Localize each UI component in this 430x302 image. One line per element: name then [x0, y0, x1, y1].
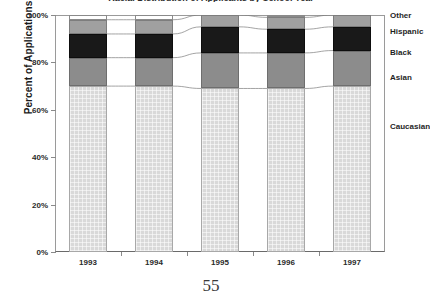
bar-segment-other: [267, 15, 305, 17]
y-tick-label: 40%: [12, 153, 48, 162]
x-tick-mark: [121, 252, 122, 256]
bar-segment-asian: [69, 58, 107, 86]
y-tick-mark: [51, 157, 56, 158]
bar-segment-black: [333, 27, 371, 51]
legend-label-asian: Asian: [390, 73, 412, 82]
bar-segment-caucasian: [201, 88, 239, 252]
bar-segment-black: [69, 34, 107, 58]
bar-segment-other: [69, 15, 107, 20]
x-tick-label: 1995: [195, 258, 245, 267]
y-tick-mark: [51, 205, 56, 206]
bar-segment-other: [135, 15, 173, 20]
bar-segment-hispanic: [69, 20, 107, 34]
bar-segment-asian: [201, 53, 239, 89]
y-tick-label: 80%: [12, 58, 48, 67]
bar-segment-caucasian: [267, 88, 305, 252]
bar-segment-hispanic: [333, 15, 371, 27]
legend-label-other: Other: [390, 11, 411, 20]
bar-1993: [69, 15, 107, 252]
x-tick-mark: [187, 252, 188, 256]
bar-segment-hispanic: [201, 15, 239, 27]
page-number: 55: [0, 276, 422, 296]
bar-segment-black: [135, 34, 173, 58]
bar-1995: [201, 15, 239, 252]
bar-1994: [135, 15, 173, 252]
bar-segment-caucasian: [69, 86, 107, 252]
legend-label-caucasian: Caucasian: [390, 122, 430, 131]
y-tick-mark: [51, 252, 56, 253]
bar-segment-caucasian: [333, 86, 371, 252]
x-tick-label: 1997: [327, 258, 377, 267]
y-tick-mark: [51, 62, 56, 63]
bar-segment-hispanic: [267, 17, 305, 29]
bar-segment-asian: [333, 51, 371, 87]
x-tick-mark: [319, 252, 320, 256]
y-tick-label: 60%: [12, 106, 48, 115]
y-tick-label: 100%: [12, 11, 48, 20]
y-tick-label: 20%: [12, 201, 48, 210]
x-tick-mark: [253, 252, 254, 256]
legend-label-black: Black: [390, 48, 411, 57]
y-tick-mark: [51, 15, 56, 16]
bar-segment-asian: [135, 58, 173, 86]
bar-segment-black: [201, 27, 239, 53]
x-tick-label: 1993: [63, 258, 113, 267]
bar-1997: [333, 15, 371, 252]
bar-1996: [267, 15, 305, 252]
x-tick-label: 1994: [129, 258, 179, 267]
y-tick-mark: [51, 110, 56, 111]
x-tick-label: 1996: [261, 258, 311, 267]
y-axis-title: Percent of Applications: [23, 0, 34, 148]
y-tick-label: 0%: [12, 248, 48, 257]
bar-segment-asian: [267, 53, 305, 89]
bar-segment-hispanic: [135, 20, 173, 34]
bar-segment-black: [267, 29, 305, 53]
chart-title: Racial Distribution of Applicants by Sch…: [0, 0, 422, 2]
bar-segment-caucasian: [135, 86, 173, 252]
legend-label-hispanic: Hispanic: [390, 27, 423, 36]
